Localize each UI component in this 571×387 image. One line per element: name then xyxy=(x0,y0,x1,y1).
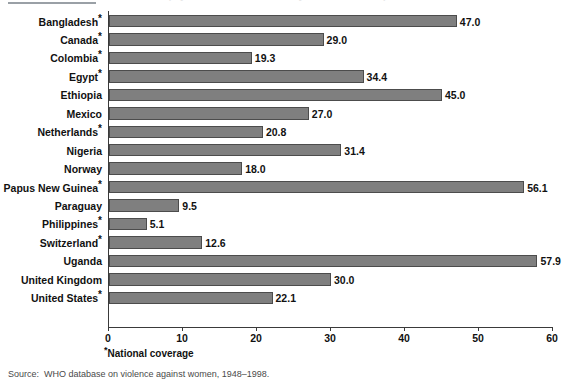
category-asterisk: * xyxy=(98,12,102,23)
category-asterisk: * xyxy=(98,30,102,41)
bar-row: Uganda57.9 xyxy=(0,252,571,270)
bar-row: Mexico27.0 xyxy=(0,105,571,123)
bar-row: Egypt*34.4 xyxy=(0,68,571,86)
x-axis-tick-label: 60 xyxy=(546,332,558,344)
x-axis-tick-label: 50 xyxy=(472,332,484,344)
x-axis-tick xyxy=(552,327,553,331)
bar-value-label: 57.9 xyxy=(536,252,560,270)
category-asterisk: * xyxy=(98,178,102,189)
category-asterisk: * xyxy=(98,123,102,134)
x-axis-tick-label: 30 xyxy=(324,332,336,344)
category-label: United Kingdom xyxy=(0,271,102,289)
category-label: Papus New Guinea* xyxy=(0,179,102,197)
title-rule xyxy=(8,2,96,4)
bar-row: Ethiopia45.0 xyxy=(0,86,571,104)
bar-value-label: 22.1 xyxy=(272,289,296,307)
category-label: Norway xyxy=(0,160,102,178)
x-axis-tick xyxy=(404,327,405,331)
bar-row: Papus New Guinea*56.1 xyxy=(0,179,571,197)
figure-title-cropped: Prevalence of physical assault on women … xyxy=(0,0,571,7)
footnote-label: National coverage xyxy=(108,348,194,359)
bar-value-label: 20.8 xyxy=(262,123,286,141)
bar-value-label: 45.0 xyxy=(441,86,465,104)
bar-row: Norway18.0 xyxy=(0,160,571,178)
bar xyxy=(109,273,331,285)
bar-value-label: 5.1 xyxy=(146,215,165,233)
bar xyxy=(109,33,324,45)
bar-row: Philippines*5.1 xyxy=(0,215,571,233)
bar xyxy=(109,107,309,119)
bar xyxy=(109,89,442,101)
category-asterisk: * xyxy=(98,215,102,226)
category-label: Colombia* xyxy=(0,49,102,67)
figure-title-text: Prevalence of physical assault on women … xyxy=(105,0,416,1)
category-label: United States* xyxy=(0,289,102,307)
category-label: Nigeria xyxy=(0,142,102,160)
category-asterisk: * xyxy=(98,67,102,78)
category-label: Mexico xyxy=(0,105,102,123)
bar xyxy=(109,162,242,174)
source-label: Source: xyxy=(8,369,39,379)
bar-value-label: 31.4 xyxy=(340,142,364,160)
bar xyxy=(109,181,524,193)
category-label: Paraguay xyxy=(0,197,102,215)
bar-row: Colombia*19.3 xyxy=(0,49,571,67)
bar-value-label: 9.5 xyxy=(178,197,197,215)
x-axis-tick xyxy=(256,327,257,331)
category-asterisk: * xyxy=(98,289,102,300)
x-axis-tick xyxy=(330,327,331,331)
bar-value-label: 18.0 xyxy=(241,160,265,178)
x-axis-tick-label: 40 xyxy=(398,332,410,344)
bar-value-label: 29.0 xyxy=(323,31,347,49)
category-label: Switzerland* xyxy=(0,234,102,252)
category-label: Netherlands* xyxy=(0,123,102,141)
category-label: Canada* xyxy=(0,31,102,49)
category-label: Ethiopia xyxy=(0,86,102,104)
category-label: Philippines* xyxy=(0,215,102,233)
bar xyxy=(109,126,263,138)
bar-row: Netherlands*20.8 xyxy=(0,123,571,141)
bar xyxy=(109,292,273,304)
x-axis-tick-label: 0 xyxy=(105,332,111,344)
bar-row: Paraguay9.5 xyxy=(0,197,571,215)
bar-value-label: 47.0 xyxy=(456,13,480,31)
bar-chart: Bangladesh*47.0Canada*29.0Colombia*19.3E… xyxy=(0,9,571,339)
category-asterisk: * xyxy=(98,233,102,244)
bar-row: Nigeria31.4 xyxy=(0,142,571,160)
bar xyxy=(109,15,457,27)
bar-value-label: 34.4 xyxy=(363,68,387,86)
bar-row: Bangladesh*47.0 xyxy=(0,13,571,31)
category-asterisk: * xyxy=(98,49,102,60)
bar-value-label: 19.3 xyxy=(251,49,275,67)
bar xyxy=(109,70,364,82)
bar-value-label: 12.6 xyxy=(201,234,225,252)
source-note: Source: WHO database on violence against… xyxy=(8,369,269,379)
category-label: Egypt* xyxy=(0,68,102,86)
bar xyxy=(109,236,202,248)
bar xyxy=(109,218,147,230)
bar-value-label: 27.0 xyxy=(308,105,332,123)
bar-value-label: 30.0 xyxy=(330,271,354,289)
bar-row: Canada*29.0 xyxy=(0,31,571,49)
bar xyxy=(109,144,341,156)
x-axis-tick-label: 10 xyxy=(176,332,188,344)
footnote: *National coverage xyxy=(104,348,194,359)
x-axis-tick xyxy=(182,327,183,331)
source-text: WHO database on violence against women, … xyxy=(44,369,269,379)
bar-row: Switzerland*12.6 xyxy=(0,234,571,252)
category-label: Uganda xyxy=(0,252,102,270)
bar xyxy=(109,199,179,211)
x-axis-tick xyxy=(478,327,479,331)
bar-row: United States*22.1 xyxy=(0,289,571,307)
x-axis-tick-label: 20 xyxy=(250,332,262,344)
bar-value-label: 56.1 xyxy=(523,179,547,197)
x-axis-tick xyxy=(108,327,109,331)
bar xyxy=(109,255,537,267)
x-axis: 0102030405060 xyxy=(108,327,554,349)
bar-row: United Kingdom30.0 xyxy=(0,271,571,289)
category-label: Bangladesh* xyxy=(0,13,102,31)
bar xyxy=(109,52,252,64)
